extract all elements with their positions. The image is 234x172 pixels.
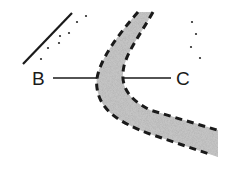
diagonal-line [23,13,72,64]
dot [76,21,78,23]
dot [199,57,201,59]
dot [195,33,197,35]
dot [58,42,60,44]
dot [40,58,42,60]
dot [47,47,49,49]
dot [191,21,193,23]
dot [190,46,192,48]
dot [59,35,61,37]
scattered-dots-right [190,21,201,59]
diagram: B C [0,0,234,172]
label-b: B [32,68,45,89]
label-c: C [176,68,190,89]
dot [85,15,87,17]
dot [68,32,70,34]
